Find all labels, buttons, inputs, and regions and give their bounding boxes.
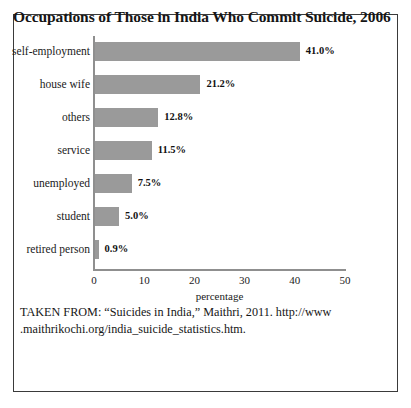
bar-value-label-4: 7.5% xyxy=(138,177,162,188)
bars-region: 41.0%21.2%12.8%11.5%7.5%5.0%0.9% xyxy=(94,38,383,269)
y-axis-line xyxy=(93,36,95,270)
x-tick-30: 30 xyxy=(239,274,250,286)
x-tick-50: 50 xyxy=(340,274,351,286)
bar-row: 21.2% xyxy=(94,75,345,94)
bar-row: 0.9% xyxy=(94,240,345,259)
bar-6 xyxy=(94,240,99,259)
bar-value-label-3: 11.5% xyxy=(158,144,186,155)
bar-2 xyxy=(94,108,158,127)
category-label-2: others xyxy=(0,111,90,123)
bar-value-label-5: 5.0% xyxy=(125,210,149,221)
category-label-5: student xyxy=(0,210,90,222)
chart-title: Occupations of Those in India Who Commit… xyxy=(13,8,401,26)
bar-row: 5.0% xyxy=(94,207,345,226)
x-tick-10: 10 xyxy=(139,274,150,286)
x-axis-tick-labels: 01020304050 xyxy=(94,274,383,290)
category-axis-labels: self-employmenthouse wifeothersserviceun… xyxy=(0,38,90,269)
bar-row: 7.5% xyxy=(94,174,345,193)
category-label-4: unemployed xyxy=(0,177,90,189)
bar-value-label-1: 21.2% xyxy=(206,78,235,89)
bar-4 xyxy=(94,174,132,193)
bar-1 xyxy=(94,75,200,94)
x-tick-40: 40 xyxy=(289,274,300,286)
x-axis-line xyxy=(93,269,346,271)
category-label-3: service xyxy=(0,144,90,156)
bar-3 xyxy=(94,141,152,160)
category-label-0: self-employment xyxy=(0,45,90,57)
bar-value-label-2: 12.8% xyxy=(164,111,193,122)
x-axis-title: percentage xyxy=(94,290,345,302)
plot-area: self-employmenthouse wifeothersserviceun… xyxy=(0,38,383,286)
x-tick-20: 20 xyxy=(189,274,200,286)
bar-5 xyxy=(94,207,119,226)
bar-value-label-6: 0.9% xyxy=(105,243,129,254)
bar-row: 11.5% xyxy=(94,141,345,160)
category-label-6: retired person xyxy=(0,243,90,255)
source-note: TAKEN FROM: “Suicides in India,” Maithri… xyxy=(20,304,380,338)
category-label-1: house wife xyxy=(0,78,90,90)
source-note-line-1: TAKEN FROM: “Suicides in India,” Maithri… xyxy=(20,304,380,321)
source-note-line-2: .maithrikochi.org/india_suicide_statisti… xyxy=(20,321,380,338)
bar-value-label-0: 41.0% xyxy=(306,45,335,56)
bar-row: 12.8% xyxy=(94,108,345,127)
bar-0 xyxy=(94,42,300,61)
x-tick-0: 0 xyxy=(91,274,97,286)
bar-row: 41.0% xyxy=(94,42,345,61)
